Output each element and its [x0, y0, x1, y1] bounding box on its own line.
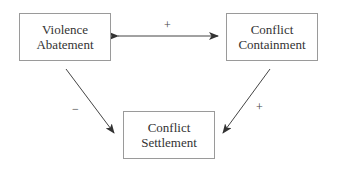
node-label-line: Abatement [36, 37, 93, 52]
node-label-line: Containment [238, 37, 305, 52]
edge-sign-plus: + [164, 19, 171, 31]
edge-abatement-settlement [66, 69, 114, 133]
node-label-line: Violence [42, 22, 88, 37]
node-conflict-containment: Conflict Containment [226, 13, 318, 61]
node-label-line: Settlement [141, 135, 197, 150]
edge-sign-plus: + [256, 101, 263, 113]
edge-sign-minus: − [72, 103, 79, 115]
diagram: Violence Abatement Conflict Containment … [0, 0, 337, 170]
node-conflict-settlement: Conflict Settlement [123, 111, 215, 159]
node-label-line: Conflict [148, 120, 191, 135]
node-label-line: Conflict [251, 22, 294, 37]
node-violence-abatement: Violence Abatement [19, 13, 111, 61]
